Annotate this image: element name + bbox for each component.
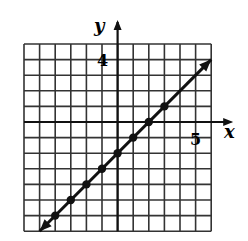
data-point: [82, 180, 90, 188]
x-axis-label: x: [223, 121, 235, 142]
coordinate-plane: x y 4 5: [0, 0, 248, 241]
data-point: [129, 133, 137, 141]
data-point: [98, 165, 106, 173]
y-tick-label-4: 4: [97, 51, 108, 70]
data-point: [51, 211, 59, 219]
data-point: [160, 102, 168, 110]
x-tick-label-5: 5: [190, 130, 201, 149]
data-line: [40, 60, 212, 232]
data-point: [145, 118, 153, 126]
data-point: [67, 196, 75, 204]
y-axis-label: y: [93, 15, 106, 36]
y-axis-arrow-icon: [114, 20, 122, 30]
data-point: [113, 149, 121, 157]
